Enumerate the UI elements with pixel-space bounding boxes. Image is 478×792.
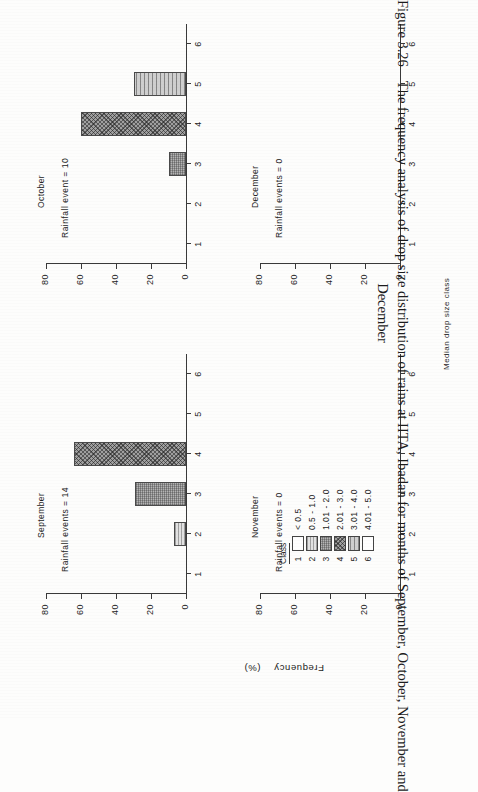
x-axis-line: [186, 24, 187, 264]
x-tick-label: 5: [193, 405, 203, 423]
caption-number: Figure 3.26: [395, 0, 411, 67]
x-tick-label: 6: [193, 35, 203, 53]
bar: [74, 442, 186, 467]
x-tick: [186, 413, 191, 414]
y-tick: [46, 594, 47, 599]
y-tick-label: 40: [324, 274, 334, 296]
x-tick: [186, 533, 191, 534]
legend-swatch: [292, 536, 304, 551]
y-tick-label: 20: [145, 274, 155, 296]
legend-swatch: [320, 536, 332, 551]
panel-september: September Rainfall events = 14 020406080…: [38, 344, 216, 634]
y-tick: [116, 264, 117, 269]
y-axis-title-text: Frequency: [274, 663, 324, 674]
y-tick-label: 80: [40, 274, 50, 296]
y-tick-label: 60: [289, 274, 299, 296]
y-tick: [260, 594, 261, 599]
x-tick-label: 2: [193, 525, 203, 543]
x-tick: [186, 123, 191, 124]
y-tick: [81, 594, 82, 599]
x-tick: [186, 83, 191, 84]
legend-range-label: 2.01 - 3.0: [335, 489, 345, 530]
x-tick-label: 5: [193, 75, 203, 93]
x-tick-label: 1: [193, 565, 203, 583]
legend-row: 1< 0.5: [292, 404, 305, 564]
figure-caption: Figure 3.26The frequency analysis of dro…: [348, 0, 412, 718]
x-tick-label: 3: [193, 155, 203, 173]
y-tick: [330, 594, 331, 599]
x-tick: [186, 163, 191, 164]
y-tick: [295, 594, 296, 599]
caption-text-1: The frequency analysis of drop size dist…: [395, 81, 411, 792]
bar: [134, 72, 187, 97]
panel-october: October Rainfall event = 10 020406080123…: [38, 14, 216, 304]
y-tick-label: 60: [75, 274, 85, 296]
y-tick-label: 40: [110, 274, 120, 296]
legend-range-label: 0.5 - 1.0: [307, 494, 317, 530]
caption-line-2: December: [373, 0, 393, 718]
x-tick-label: 4: [193, 445, 203, 463]
y-tick: [81, 264, 82, 269]
legend-class-number: 4: [335, 554, 345, 564]
legend-row: 42.01 - 3.0: [334, 404, 347, 564]
legend-row: 20.5 - 1.0: [306, 404, 319, 564]
y-tick-label: 60: [289, 604, 299, 626]
bar: [174, 522, 186, 547]
legend-range-label: < 0.5: [293, 508, 303, 530]
y-tick-label: 80: [254, 604, 264, 626]
x-axis-title: Median drop size class: [442, 278, 451, 370]
y-tick: [260, 264, 261, 269]
x-tick: [186, 573, 191, 574]
y-axis-unit: (%): [244, 663, 261, 674]
x-tick-label: 3: [193, 485, 203, 503]
y-tick: [186, 264, 187, 269]
x-tick-label: 2: [193, 195, 203, 213]
y-axis-title: Frequency (%): [244, 663, 324, 674]
x-tick: [186, 453, 191, 454]
plot-october: 020406080123456: [38, 14, 216, 304]
y-tick-label: 40: [324, 604, 334, 626]
bar: [169, 152, 187, 177]
x-tick-label: 6: [193, 365, 203, 383]
y-tick: [46, 264, 47, 269]
y-tick: [151, 264, 152, 269]
legend-swatch: [334, 536, 346, 551]
legend-header: Class: [278, 543, 290, 564]
bar: [135, 482, 186, 507]
y-tick-label: 40: [110, 604, 120, 626]
x-axis-line: [186, 354, 187, 594]
x-tick-label: 1: [193, 235, 203, 253]
y-tick-label: 80: [40, 604, 50, 626]
x-tick: [186, 373, 191, 374]
y-tick: [295, 264, 296, 269]
y-tick: [186, 594, 187, 599]
bar: [81, 112, 186, 137]
plot-september: 020406080123456: [38, 344, 216, 634]
y-tick-label: 80: [254, 274, 264, 296]
x-tick: [186, 43, 191, 44]
y-tick-label: 60: [75, 604, 85, 626]
legend-class-number: 1: [293, 554, 303, 564]
legend-class-number: 3: [321, 554, 331, 564]
y-tick: [151, 594, 152, 599]
legend-swatch: [306, 536, 318, 551]
x-tick: [186, 493, 191, 494]
caption-line-1: Figure 3.26The frequency analysis of dro…: [392, 0, 412, 718]
y-tick: [116, 594, 117, 599]
legend-range-label: 1.01 - 2.0: [321, 489, 331, 530]
legend-row: 31.01 - 2.0: [320, 404, 333, 564]
y-tick-label: 0: [180, 604, 190, 626]
x-tick-label: 4: [193, 115, 203, 133]
x-tick: [186, 203, 191, 204]
legend-class-number: 2: [307, 554, 317, 564]
y-tick-label: 20: [145, 604, 155, 626]
y-tick: [330, 264, 331, 269]
y-tick-label: 0: [180, 274, 190, 296]
x-tick: [186, 243, 191, 244]
